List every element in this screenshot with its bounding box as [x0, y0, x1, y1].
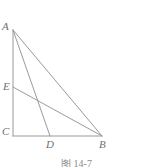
vertex-label-c: C [2, 126, 9, 137]
vertex-label-a: A [2, 21, 9, 32]
figure-caption: 图 14-7 [0, 159, 153, 167]
vertex-label-e: E [3, 81, 10, 92]
geometry-figure: A E C D B 图 14-7 [0, 0, 153, 167]
segment-AD [13, 30, 50, 136]
triangle-outline [13, 30, 102, 136]
geometry-canvas [0, 0, 153, 167]
vertex-label-b: B [99, 139, 106, 150]
vertex-label-d: D [46, 139, 54, 150]
segment-AB [13, 30, 102, 136]
segment-EB [13, 87, 102, 136]
